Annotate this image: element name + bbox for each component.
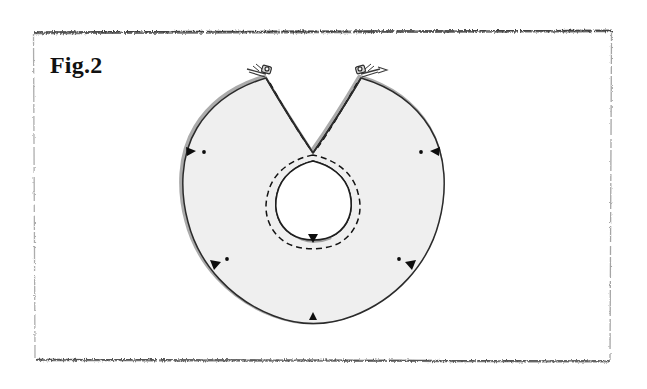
balance-dot-right-lower (397, 257, 401, 261)
frame-rule-bottom (36, 359, 610, 361)
balance-dot-right-upper (419, 150, 423, 154)
clasp-left (247, 64, 272, 77)
frame-rule-left (34, 34, 36, 358)
balance-dot-left-lower (225, 257, 229, 261)
figure-page: Fig.2 (0, 0, 647, 389)
frame-rule-right (610, 32, 612, 360)
frame-rule-top (34, 31, 612, 34)
balance-dot-left-upper (202, 150, 206, 154)
collar-pattern-piece (181, 64, 444, 324)
figure-label: Fig.2 (50, 53, 102, 77)
